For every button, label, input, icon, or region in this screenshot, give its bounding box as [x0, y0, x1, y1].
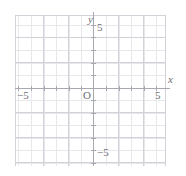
coordinate-plane-figure: y x 5 −5 −5 5 O [0, 0, 186, 176]
y-tick-label-5: 5 [97, 22, 103, 33]
x-axis-label: x [168, 74, 173, 85]
y-axis-label: y [88, 14, 93, 25]
origin-label: O [83, 90, 91, 101]
x-tick-label-minus-5: −5 [17, 90, 29, 101]
grid-and-axes [0, 0, 186, 176]
x-tick-label-5: 5 [155, 90, 161, 101]
y-tick-label-minus-5: −5 [97, 147, 109, 158]
